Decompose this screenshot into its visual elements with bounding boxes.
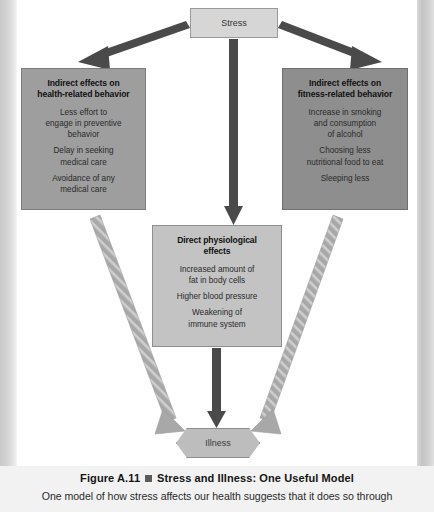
caption-title-line: Figure A.11Stress and Illness: One Usefu… bbox=[0, 472, 434, 484]
caption-bullet-square-icon bbox=[145, 475, 152, 482]
node-illness-label: Illness bbox=[176, 428, 260, 458]
page-gutter-right bbox=[417, 0, 434, 466]
node-stress-label: Stress bbox=[221, 18, 247, 28]
caption-figure-number: Figure A.11 bbox=[80, 472, 140, 484]
node-indirect-fitness-item: Increase in smoking and consumption of a… bbox=[309, 107, 382, 141]
node-indirect-fitness-item: Choosing less nutritional food to eat bbox=[307, 145, 383, 167]
figure-caption: Figure A.11Stress and Illness: One Usefu… bbox=[0, 466, 434, 512]
node-direct-physiological-item: Increased amount of fat in body cells bbox=[180, 264, 255, 286]
node-direct-physiological-item: Higher blood pressure bbox=[177, 291, 258, 302]
node-direct-physiological-item: Weakening of immune system bbox=[188, 307, 245, 329]
node-indirect-health-title: Indirect effects on health-related behav… bbox=[37, 78, 129, 101]
node-indirect-health-item: Avoidance of any medical care bbox=[52, 173, 115, 195]
node-indirect-health-item: Less effort to engage in preventive beha… bbox=[45, 107, 121, 141]
node-direct-physiological-title: Direct physiological effects bbox=[177, 235, 257, 258]
caption-title-text: Stress and Illness: One Useful Model bbox=[157, 472, 354, 484]
figure-page: Stress Indirect effects on health-relate… bbox=[0, 0, 434, 512]
node-indirect-fitness-title: Indirect effects on fitness-related beha… bbox=[298, 78, 393, 101]
node-indirect-health-item: Delay in seeking medical care bbox=[53, 145, 113, 167]
node-indirect-health-effects[interactable]: Indirect effects on health-related behav… bbox=[21, 68, 146, 210]
node-direct-physiological-effects[interactable]: Direct physiological effects Increased a… bbox=[152, 225, 282, 347]
caption-body-text: One model of how stress affects our heal… bbox=[0, 490, 434, 502]
node-indirect-fitness-item: Sleeping less bbox=[321, 173, 370, 184]
page-gutter-left bbox=[0, 0, 17, 466]
node-stress[interactable]: Stress bbox=[190, 8, 278, 38]
node-illness[interactable]: Illness bbox=[176, 428, 260, 458]
node-indirect-fitness-effects[interactable]: Indirect effects on fitness-related beha… bbox=[282, 68, 408, 210]
